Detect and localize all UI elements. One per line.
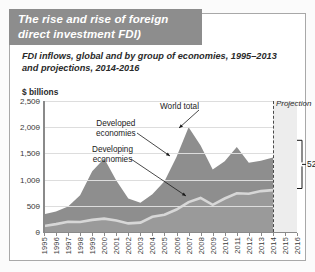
annotation-developed-line2: economies — [96, 129, 136, 139]
x-axis-tick-label: 2002 — [124, 237, 133, 254]
x-axis-tick-label: 2013 — [257, 237, 266, 254]
y-axis-unit-label: $ billions — [22, 87, 58, 97]
y-axis-tick — [36, 232, 40, 233]
x-axis-tick-label: 2008 — [197, 237, 206, 254]
x-axis-tick — [92, 233, 93, 236]
chart-subtitle: FDI inflows, global and by group of econ… — [22, 51, 292, 74]
x-axis-tick-label: 2016 — [293, 237, 302, 254]
x-axis-tick — [44, 233, 45, 236]
y-axis-tick — [36, 206, 40, 207]
y-axis-line — [43, 101, 45, 232]
x-axis-tick-label: 1999 — [88, 237, 97, 254]
y-axis-tick — [36, 153, 40, 154]
figure-panel: The rise and rise of foreign direct inve… — [0, 0, 315, 272]
x-axis-tick — [273, 233, 274, 236]
x-axis-tick-label: 2005 — [160, 237, 169, 254]
x-axis-tick-label: 2011 — [233, 237, 242, 254]
x-axis-tick — [297, 233, 298, 236]
gridline — [44, 206, 297, 207]
stacked-area-series — [44, 101, 297, 232]
x-axis-tick-label: 2003 — [136, 237, 145, 254]
x-axis-tick — [152, 233, 153, 236]
x-axis-tick — [189, 233, 190, 236]
x-axis-tick — [285, 233, 286, 236]
x-axis-labels: 1995199619971998199920002001200220032004… — [44, 233, 297, 271]
x-axis-tick-label: 2009 — [209, 237, 218, 254]
x-axis-tick — [201, 233, 202, 236]
x-axis-tick — [80, 233, 81, 236]
x-axis-tick — [56, 233, 57, 236]
gridline — [44, 127, 297, 128]
x-axis-tick — [249, 233, 250, 236]
x-axis-tick-label: 1997 — [64, 237, 73, 254]
x-axis-tick — [261, 233, 262, 236]
title-banner: The rise and rise of foreign direct inve… — [9, 9, 202, 45]
chart-plot-area — [44, 101, 297, 232]
x-axis-tick — [140, 233, 141, 236]
y-axis-tick — [36, 101, 40, 102]
projection-divider-line — [273, 101, 274, 232]
annotation-developing-line1: Developing — [92, 145, 133, 155]
bracket-percent-label: 52% — [307, 159, 315, 169]
x-axis-tick-label: 1995 — [40, 237, 49, 254]
x-axis-tick-label: 2010 — [221, 237, 230, 254]
x-axis-tick-label: 1998 — [76, 237, 85, 254]
x-axis-tick — [237, 233, 238, 236]
projection-band — [273, 101, 297, 232]
y-axis-tick — [36, 180, 40, 181]
y-axis-tick — [36, 127, 40, 128]
annotation-world-total: World total — [160, 102, 199, 112]
x-axis-tick — [164, 233, 165, 236]
x-axis-tick-label: 2001 — [112, 237, 121, 254]
y-axis-labels: 05001,0001,5002,0002,500 — [0, 101, 40, 232]
gridline — [44, 180, 297, 181]
x-axis-tick-label: 2004 — [148, 237, 157, 254]
x-axis-tick — [116, 233, 117, 236]
x-axis-tick — [104, 233, 105, 236]
x-axis-tick-label: 1996 — [52, 237, 61, 254]
x-axis-tick — [68, 233, 69, 236]
x-axis-tick-label: 2006 — [173, 237, 182, 254]
projection-label: Projection — [276, 99, 312, 108]
x-axis-tick — [177, 233, 178, 236]
page-title: The rise and rise of foreign direct inve… — [18, 12, 196, 42]
gridline — [44, 153, 297, 154]
x-axis-tick — [225, 233, 226, 236]
x-axis-tick-label: 2014 — [269, 237, 278, 254]
annotation-developed-economies: Developed economies — [96, 119, 136, 138]
x-axis-tick — [128, 233, 129, 236]
x-axis-tick-label: 2012 — [245, 237, 254, 254]
annotation-developing-economies: Developing economies — [92, 145, 133, 164]
x-axis-tick-label: 2000 — [100, 237, 109, 254]
x-axis-tick-label: 2015 — [281, 237, 290, 254]
x-axis-tick-label: 2007 — [185, 237, 194, 254]
x-axis-tick — [213, 233, 214, 236]
annotation-developed-line1: Developed — [96, 119, 136, 129]
annotation-developing-line2: economies — [92, 155, 133, 165]
